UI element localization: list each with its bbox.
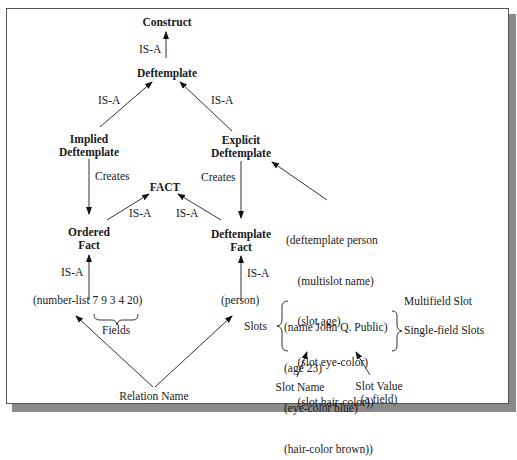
code-line: (multislot name) bbox=[286, 275, 378, 289]
node-explicit-line2: Deftemplate bbox=[201, 147, 281, 160]
slot-name-label: Slot Name bbox=[265, 381, 335, 394]
node-ordered-line2: Fact bbox=[49, 239, 129, 252]
slot-value-label: Slot Value (a field) bbox=[344, 380, 414, 406]
node-ordered-fact: Ordered Fact bbox=[49, 226, 129, 252]
node-implied-line1: Implied bbox=[49, 133, 129, 146]
ordered-fact-example: (number-list 7 9 3 4 20) bbox=[33, 294, 142, 307]
node-deftemplate-fact-line1: Deftemplate bbox=[201, 228, 281, 241]
code-line: (deftemplate person bbox=[286, 234, 378, 248]
edge-label-isa-explicit: IS-A bbox=[211, 94, 233, 107]
edge-label-creates-deftemplate-fact: Creates bbox=[201, 171, 235, 184]
singlefield-slots-label: Single-field Slots bbox=[404, 324, 484, 337]
node-explicit-line1: Explicit bbox=[201, 134, 281, 147]
edge-label-isa-implied: IS-A bbox=[98, 94, 120, 107]
edge-label-isa-deftemplate-fact: IS-A bbox=[176, 207, 198, 220]
node-ordered-line1: Ordered bbox=[49, 226, 129, 239]
relation-number-list: (number-list bbox=[33, 294, 90, 306]
slot-list: (name John Q. Public) (age 23) (eye-colo… bbox=[284, 294, 387, 460]
fields-values: 7 9 3 4 20) bbox=[93, 294, 143, 306]
relation-name-label: Relation Name bbox=[109, 390, 199, 403]
node-deftemplate: Deftemplate bbox=[122, 67, 212, 80]
edge-label-creates-ordered: Creates bbox=[95, 170, 129, 183]
node-implied-line2: Deftemplate bbox=[49, 146, 129, 159]
node-implied-deftemplate: Implied Deftemplate bbox=[49, 133, 129, 159]
slot-value-line2: (a field) bbox=[344, 393, 414, 406]
multifield-slot-label: Multifield Slot bbox=[404, 295, 472, 308]
slots-label: Slots bbox=[244, 320, 267, 333]
fields-label: Fields bbox=[102, 324, 130, 337]
edge-label-isa-ordered-fact: IS-A bbox=[129, 207, 151, 220]
slot-item: (hair-color brown)) bbox=[284, 443, 387, 457]
relation-person: (person) bbox=[221, 294, 259, 307]
node-explicit-deftemplate: Explicit Deftemplate bbox=[201, 134, 281, 160]
edge-label-isa-construct: IS-A bbox=[139, 43, 161, 56]
slot-item: (age 23) bbox=[284, 362, 387, 376]
edge-label-isa-number-list: IS-A bbox=[61, 266, 83, 279]
node-deftemplate-fact-line2: Fact bbox=[201, 241, 281, 254]
node-fact: FACT bbox=[145, 181, 185, 194]
slot-value-line1: Slot Value bbox=[344, 380, 414, 393]
node-construct: Construct bbox=[127, 16, 207, 29]
node-deftemplate-fact: Deftemplate Fact bbox=[201, 228, 281, 254]
slot-item: (name John Q. Public) bbox=[284, 321, 387, 335]
edge-label-isa-person: IS-A bbox=[247, 267, 269, 280]
